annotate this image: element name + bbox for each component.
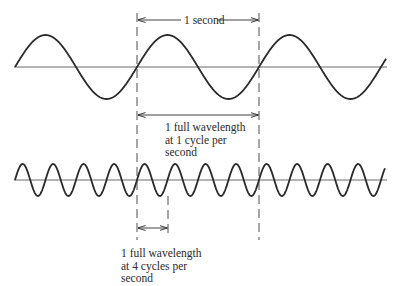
wavelength-4cps-line-3: second <box>121 272 201 285</box>
wavelength-4cps-line-2: at 4 cycles per <box>121 260 201 273</box>
wavelength-1cps-line-1: 1 full wavelength <box>165 121 245 134</box>
wavelength-4cps-label: 1 full wavelength at 4 cycles per second <box>121 247 201 285</box>
wavelength-1cps-label: 1 full wavelength at 1 cycle per second <box>165 121 245 159</box>
wavelength-1cps-line-2: at 1 cycle per <box>165 134 245 147</box>
one-second-label: 1 second <box>184 14 225 26</box>
wavelength-1cps-line-3: second <box>165 146 245 159</box>
wavelength-4cps-line-1: 1 full wavelength <box>121 247 201 260</box>
